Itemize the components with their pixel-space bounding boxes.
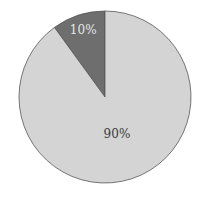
slice-label-90-percent: 90% [104,127,131,141]
slice-label-10-percent: 10% [70,23,97,37]
pie-slice-90-percent [19,11,191,183]
pie-chart: 10% 90% [0,0,203,197]
